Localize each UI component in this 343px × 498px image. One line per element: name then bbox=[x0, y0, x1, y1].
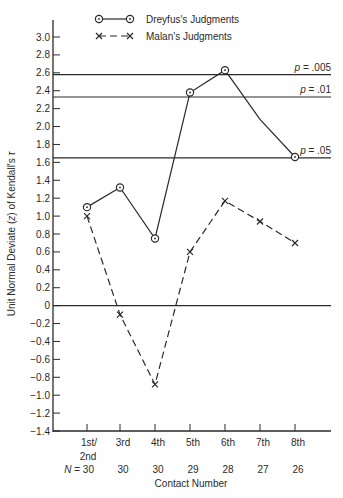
y-tick-label: −1.4 bbox=[30, 426, 50, 437]
legend-malan-label: Malan's Judgments bbox=[146, 31, 232, 42]
circle-marker-dot bbox=[129, 18, 131, 20]
y-tick-label: 3.0 bbox=[36, 32, 50, 43]
y-tick-label: −1.0 bbox=[30, 390, 50, 401]
y-tick-label: 2.2 bbox=[36, 103, 50, 114]
x-marker-icon bbox=[152, 381, 158, 387]
y-tick-label: 2.6 bbox=[36, 67, 50, 78]
x-tick-label: 3rd bbox=[116, 437, 130, 448]
y-tick-label: 1.2 bbox=[36, 193, 50, 204]
y-tick-label: 2.8 bbox=[36, 49, 50, 60]
x-tick-label: 5th bbox=[186, 437, 200, 448]
reference-label: p = .01 bbox=[299, 84, 331, 95]
x-marker-icon bbox=[84, 213, 90, 219]
x-tick-label: 8th bbox=[291, 437, 305, 448]
n-value: 30 bbox=[152, 464, 164, 475]
circle-marker-dot bbox=[98, 18, 100, 20]
x-tick-label: 4th bbox=[151, 437, 165, 448]
n-value: 26 bbox=[292, 464, 304, 475]
reference-label: p = .005 bbox=[294, 62, 332, 73]
n-value: 30 bbox=[117, 464, 129, 475]
chart: 3.02.82.62.42.22.01.81.61.41.21.00.80.60… bbox=[0, 0, 343, 498]
circle-marker-dot bbox=[189, 92, 191, 94]
series-line bbox=[87, 201, 295, 385]
n-value: 27 bbox=[257, 464, 269, 475]
y-axis-label: Unit Normal Deviate (z) of Kendall's τ bbox=[6, 150, 17, 316]
series-dreyfus bbox=[83, 67, 298, 243]
n-label: N = 30 bbox=[64, 464, 94, 475]
y-tick-label: −0.6 bbox=[30, 354, 50, 365]
y-tick-label: −0.4 bbox=[30, 336, 50, 347]
y-tick-label: −0.8 bbox=[30, 372, 50, 383]
y-tick-label: 0.2 bbox=[36, 282, 50, 293]
y-tick-label: 0.6 bbox=[36, 246, 50, 257]
y-tick-label: 1.8 bbox=[36, 139, 50, 150]
y-tick-label: 0.8 bbox=[36, 229, 50, 240]
y-tick-label: −0.2 bbox=[30, 318, 50, 329]
y-tick-label: 1.6 bbox=[36, 157, 50, 168]
x-marker-icon bbox=[292, 240, 298, 246]
circle-marker-dot bbox=[154, 238, 156, 240]
y-tick-label: 0 bbox=[44, 300, 50, 311]
legend-dreyfus-label: Dreyfus's Judgments bbox=[146, 14, 239, 25]
x-marker-icon bbox=[257, 218, 263, 224]
circle-marker-dot bbox=[86, 206, 88, 208]
y-tick-label: 0.4 bbox=[36, 264, 50, 275]
reference-label: p = .05 bbox=[299, 145, 331, 156]
n-value: 28 bbox=[222, 464, 234, 475]
x-axis-label: Contact Number bbox=[155, 478, 228, 489]
series-malan bbox=[84, 198, 298, 388]
x-marker-icon bbox=[117, 312, 123, 318]
circle-marker-dot bbox=[294, 156, 296, 158]
x-tick-label: 1st/ bbox=[81, 437, 97, 448]
circle-marker-dot bbox=[224, 69, 226, 71]
x-tick-label: 7th bbox=[256, 437, 270, 448]
x-tick-label: 6th bbox=[221, 437, 235, 448]
y-tick-label: 1.4 bbox=[36, 175, 50, 186]
y-tick-label: −1.2 bbox=[30, 408, 50, 419]
x-marker-icon bbox=[187, 249, 193, 255]
y-tick-label: 2.4 bbox=[36, 85, 50, 96]
y-tick-label: 2.0 bbox=[36, 121, 50, 132]
x-tick-label: 2nd bbox=[80, 451, 97, 462]
y-tick-label: 1.0 bbox=[36, 211, 50, 222]
x-marker-icon bbox=[222, 198, 228, 204]
n-value: 29 bbox=[187, 464, 199, 475]
legend: Dreyfus's JudgmentsMalan's Judgments bbox=[95, 14, 239, 42]
circle-marker-dot bbox=[119, 187, 121, 189]
